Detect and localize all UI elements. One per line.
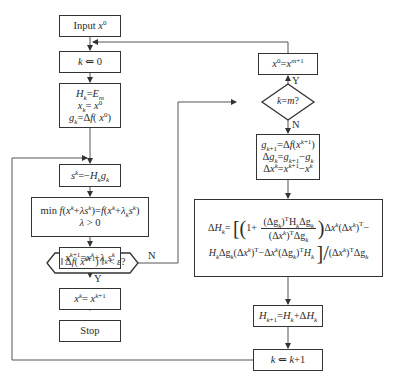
gradient-line: gk+1=Δf(xk+1) [261,139,315,151]
init-h-box: Hk=Em xk= x0 gk=Δf( x0) [59,83,121,128]
line-search-line1: min f(xk+λsk)=f(xk+λksk) [41,205,140,217]
delta-h-line2: HkΔgk(Δxk)T−Δxk(Δgk)THk ]/(Δxk)TΔgk [209,246,369,260]
k-equals-m-label: k=m? [266,95,310,106]
stop-box: Stop [59,320,121,342]
direction-box: sk=−Hkgk [59,164,121,187]
convergence-yes-label: Y [94,273,102,284]
restart-label: x0=xm+1 [272,58,303,70]
init-g-line: gk=Δf( x0) [69,112,111,124]
increment-k-box: k ⇐ k+1 [253,349,323,371]
delta-h-box: ΔHk= [(1+ (Δgk)THkΔgk(Δxk)TΔgk)Δxk(Δxk)T… [194,199,383,277]
convergence-test-label: ‖ Δf( xk+1) ‖ < ε? [52,256,134,267]
increment-k-label: k ⇐ k+1 [271,354,306,366]
update-h-label: Hk+1=Hk+ΔHk [259,310,317,322]
assign-result-label: xk= xk+1 [74,293,106,305]
direction-label: sk=−Hkgk [71,170,109,182]
init-k-box: k ⇐ 0 [59,51,121,73]
k-equals-m-yes-label: Y [292,75,300,86]
init-k-label: k ⇐ 0 [78,56,102,68]
k-equals-m-no-label: N [292,119,300,130]
line-search-box: min f(xk+λsk)=f(xk+λksk) λ > 0 [31,197,149,237]
init-x-line: xk= x0 [78,100,103,112]
assign-result-box: xk= xk+1 [59,288,121,310]
line-search-line2: λ > 0 [80,217,101,229]
delta-x-line: Δxk=xk+1−xk [263,163,312,175]
stop-label: Stop [80,325,99,337]
delta-h-line1: ΔHk= [(1+ (Δgk)THkΔgk(Δxk)TΔgk)Δxk(Δxk)T… [208,215,369,242]
gradients-box: gk+1=Δf(xk+1) Δgk=gk+1−gk Δxk=xk+1−xk [256,134,320,180]
restart-box: x0=xm+1 [258,53,318,75]
input-box: Input x0 [59,15,121,37]
update-h-box: Hk+1=Hk+ΔHk [253,305,323,327]
input-label: Input x0 [74,20,107,32]
convergence-no-label: N [148,250,156,261]
